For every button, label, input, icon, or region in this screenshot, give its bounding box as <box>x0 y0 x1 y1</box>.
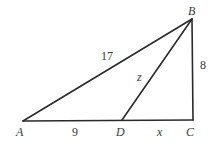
segment-ab <box>23 19 192 121</box>
segment-bd <box>122 19 192 120</box>
vertex-label-d: D <box>115 125 125 139</box>
triangle-diagram: B A D C 17 z 8 9 x <box>0 0 213 143</box>
segment-ac <box>23 120 193 121</box>
vertex-label-b: B <box>188 4 196 18</box>
side-label-dc: x <box>156 125 163 139</box>
side-label-bd: z <box>136 70 142 84</box>
side-label-bc: 8 <box>200 58 206 72</box>
vertex-label-a: A <box>15 125 24 139</box>
segment-bc <box>192 19 193 120</box>
vertex-label-c: C <box>186 125 195 139</box>
side-label-ad: 9 <box>72 125 78 139</box>
side-label-ab: 17 <box>101 49 113 63</box>
